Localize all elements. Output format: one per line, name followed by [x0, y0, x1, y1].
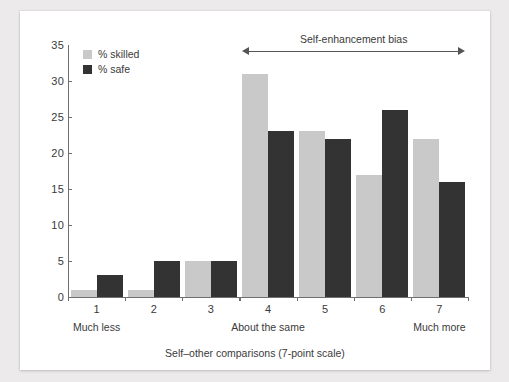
y-tick-mark: [68, 189, 72, 190]
legend-item-safe: % safe: [83, 63, 139, 76]
bar-safe-2: [154, 261, 180, 297]
x-annotation-much-more: Much more: [379, 321, 499, 333]
x-tick-label-7: 7: [419, 303, 459, 315]
x-tick-mark: [68, 297, 69, 301]
x-axis-title: Self–other comparisons (7-point scale): [20, 347, 490, 359]
y-tick-label: 5: [38, 255, 64, 267]
y-tick-label: 15: [38, 183, 64, 195]
bar-chart: 05101520253035 1234567 Much lessAbout th…: [20, 11, 490, 370]
x-tick-label-2: 2: [134, 303, 174, 315]
y-tick-mark: [68, 225, 72, 226]
x-tick-label-4: 4: [248, 303, 288, 315]
chart-card: 05101520253035 1234567 Much lessAbout th…: [20, 11, 490, 370]
legend-swatch-skilled: [83, 50, 92, 59]
x-tick-label-3: 3: [191, 303, 231, 315]
bar-skilled-6: [356, 175, 382, 297]
y-tick-label: 20: [38, 147, 64, 159]
bar-skilled-3: [185, 261, 211, 297]
bars-container: [68, 45, 468, 297]
self-enhancement-annotation: Self-enhancement bias: [242, 33, 466, 56]
y-tick-mark: [68, 153, 72, 154]
annotation-label: Self-enhancement bias: [242, 33, 466, 45]
legend-swatch-safe: [83, 65, 92, 74]
bar-skilled-1: [71, 290, 97, 297]
chart-legend: % skilled % safe: [83, 48, 139, 78]
x-tick-mark: [297, 297, 298, 301]
y-tick-label: 35: [38, 39, 64, 51]
x-tick-mark: [468, 297, 469, 301]
arrow-head-right-icon: [458, 47, 465, 55]
bar-skilled-5: [299, 131, 325, 297]
bar-safe-3: [211, 261, 237, 297]
x-annotation-about-the-same: About the same: [208, 321, 328, 333]
y-tick-mark: [68, 261, 72, 262]
x-tick-mark: [354, 297, 355, 301]
y-tick-label: 25: [38, 111, 64, 123]
x-tick-label-6: 6: [362, 303, 402, 315]
x-annotation-much-less: Much less: [37, 321, 157, 333]
double-headed-arrow-icon: [242, 47, 466, 56]
y-tick-mark: [68, 81, 72, 82]
bar-safe-6: [382, 110, 408, 297]
y-tick-mark: [68, 117, 72, 118]
legend-item-skilled: % skilled: [83, 48, 139, 61]
bar-safe-4: [268, 131, 294, 297]
bar-skilled-4: [242, 74, 268, 297]
x-tick-label-1: 1: [77, 303, 117, 315]
bar-safe-1: [97, 275, 123, 297]
x-tick-mark: [125, 297, 126, 301]
x-tick-mark: [411, 297, 412, 301]
arrow-shaft: [248, 51, 460, 52]
legend-label-safe: % safe: [98, 64, 130, 75]
y-tick-label: 30: [38, 75, 64, 87]
bar-skilled-2: [128, 290, 154, 297]
bar-safe-7: [439, 182, 465, 297]
legend-label-skilled: % skilled: [98, 49, 139, 60]
x-tick-mark: [239, 297, 240, 301]
bar-safe-5: [325, 139, 351, 297]
y-tick-label: 10: [38, 219, 64, 231]
y-tick-label: 0: [38, 291, 64, 303]
x-tick-label-5: 5: [305, 303, 345, 315]
bar-skilled-7: [413, 139, 439, 297]
x-axis-line: [68, 297, 468, 298]
x-tick-mark: [182, 297, 183, 301]
